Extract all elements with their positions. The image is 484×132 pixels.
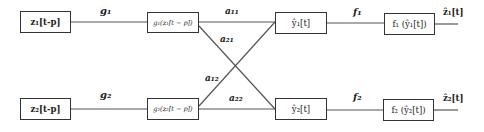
node-f1: f₁ (ŷ₁[t]) — [384, 13, 435, 35]
label-f2: f₂ — [353, 91, 362, 102]
node-g1: g₁(z₁[t − p]) — [147, 12, 199, 33]
label-a22: a₂₂ — [229, 93, 243, 103]
label-f1: f₁ — [353, 6, 362, 17]
node-z1: z₁[t-p] — [20, 11, 71, 33]
node-g2: g₂(z₂[t − p]) — [147, 98, 199, 120]
output-z1hat: ẑ₁[t] — [443, 7, 464, 17]
node-y1: ŷ₁[t] — [275, 12, 327, 34]
label-g2: g₂ — [100, 89, 111, 100]
node-z2: z₂[t-p] — [20, 98, 71, 120]
output-z2hat: ẑ₂[t] — [443, 93, 464, 103]
label-a11: a₁₁ — [225, 6, 239, 16]
node-f2: f₂ (ŷ₂[t]) — [383, 99, 434, 121]
label-a12: a₁₂ — [205, 73, 219, 83]
label-a21: a₂₁ — [220, 34, 234, 44]
node-y2: ŷ₂[t] — [275, 98, 327, 120]
label-g1: g₁ — [100, 5, 111, 16]
